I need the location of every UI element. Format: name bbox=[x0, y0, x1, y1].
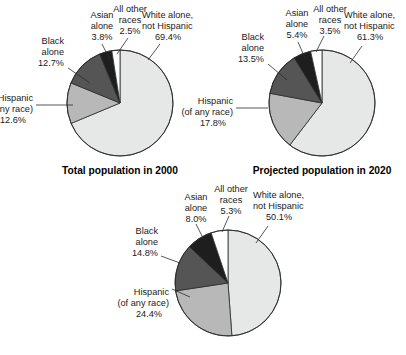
pie-slices-chart-0 bbox=[67, 50, 173, 156]
label-line1: All other bbox=[113, 4, 147, 14]
label-line2: races bbox=[119, 15, 142, 25]
label-line1: Asian bbox=[286, 8, 309, 18]
pie-chart-figure: White alone, not Hispanic 69.4% Hispanic… bbox=[0, 0, 406, 355]
label-value: 12.6% bbox=[0, 115, 26, 125]
label-line2: not Hispanic bbox=[253, 201, 304, 211]
label-line1: White alone, bbox=[142, 10, 193, 20]
label-value: 12.7% bbox=[38, 58, 64, 68]
slice-label-black-alone-chart-0: Black alone 12.7% bbox=[38, 36, 64, 68]
figure-canvas: White alone, not Hispanic 69.4% Hispanic… bbox=[0, 0, 406, 355]
pie-chart-projected-population-2020: White alone, not Hispanic 61.3% Hispanic… bbox=[181, 4, 395, 176]
label-value: 13.5% bbox=[238, 54, 264, 64]
slice-label-black-alone-chart-1: Black alone 13.5% bbox=[238, 32, 264, 64]
slice-label-black-alone-chart-2: Black alone 14.8% bbox=[132, 226, 158, 258]
label-line2: alone bbox=[242, 43, 264, 53]
label-line2: alone bbox=[91, 21, 113, 31]
leader-line-black-chart-2 bbox=[161, 256, 180, 263]
label-line1: Black bbox=[136, 226, 159, 236]
pie-slice-hispanic-of-any-race[interactable] bbox=[176, 283, 232, 336]
chart-title-total-population-2000: Total population in 2000 bbox=[62, 165, 178, 176]
label-line2: alone bbox=[286, 19, 308, 29]
slice-label-white-alone-chart-0: White alone, not Hispanic 69.4% bbox=[142, 10, 193, 42]
label-line1: Hispanic bbox=[134, 287, 170, 297]
chart-title-projected-population-2020: Projected population in 2020 bbox=[253, 165, 392, 176]
slice-label-hispanic-chart-2: Hispanic (of any race) 24.4% bbox=[117, 287, 169, 319]
label-line1: All other bbox=[214, 184, 248, 194]
label-value: 61.3% bbox=[357, 32, 383, 42]
label-line2: (of any race) bbox=[0, 104, 33, 114]
pie-slices-chart-1 bbox=[269, 50, 375, 156]
label-value: 2.5% bbox=[120, 26, 141, 36]
label-line1: Hispanic bbox=[198, 96, 234, 106]
label-line1: Black bbox=[242, 32, 265, 42]
slice-label-hispanic-chart-1: Hispanic (of any race) 17.8% bbox=[181, 96, 233, 128]
label-line2: (of any race) bbox=[181, 107, 233, 117]
slice-label-all-other-races-chart-1: All other races 3.5% bbox=[313, 4, 347, 36]
label-line1: Black bbox=[42, 36, 65, 46]
slice-label-all-other-races-chart-2: All other races 5.3% bbox=[214, 184, 248, 216]
label-value: 5.3% bbox=[221, 206, 242, 216]
leader-line-white-chart-0 bbox=[148, 44, 160, 60]
pie-chart-projected-population-2050: White alone, not Hispanic 50.1% Hispanic… bbox=[117, 184, 304, 336]
label-line1: Hispanic bbox=[0, 93, 33, 103]
slice-label-white-alone-chart-1: White alone, not Hispanic 61.3% bbox=[344, 10, 395, 42]
label-value: 3.8% bbox=[92, 32, 113, 42]
pie-slice-white-alone-not-hispanic[interactable] bbox=[228, 230, 281, 336]
label-value: 8.0% bbox=[186, 214, 207, 224]
slice-label-all-other-races-chart-0: All other races 2.5% bbox=[113, 4, 147, 36]
slice-label-asian-alone-chart-1: Asian alone 5.4% bbox=[286, 8, 309, 40]
label-line2: alone bbox=[42, 47, 64, 57]
slice-label-hispanic-chart-0: Hispanic (of any race) 12.6% bbox=[0, 93, 33, 125]
label-value: 5.4% bbox=[287, 30, 308, 40]
slice-label-white-alone-chart-2: White alone, not Hispanic 50.1% bbox=[253, 190, 304, 222]
label-line2: not Hispanic bbox=[142, 21, 193, 31]
label-value: 24.4% bbox=[136, 309, 162, 319]
pie-slices-chart-2 bbox=[175, 230, 281, 336]
label-value: 69.4% bbox=[155, 32, 181, 42]
label-line2: alone bbox=[185, 203, 207, 213]
label-line2: (of any race) bbox=[117, 298, 169, 308]
pie-chart-total-population-2000: White alone, not Hispanic 69.4% Hispanic… bbox=[0, 4, 193, 176]
leader-line-white-chart-1 bbox=[350, 46, 362, 63]
label-line1: Asian bbox=[185, 192, 208, 202]
label-line1: All other bbox=[313, 4, 347, 14]
label-line2: not Hispanic bbox=[344, 21, 395, 31]
label-value: 50.1% bbox=[266, 212, 292, 222]
label-line1: White alone, bbox=[344, 10, 395, 20]
label-value: 17.8% bbox=[200, 118, 226, 128]
leader-line-white-chart-2 bbox=[256, 226, 268, 243]
slice-label-asian-alone-chart-2: Asian alone 8.0% bbox=[185, 192, 208, 224]
label-line1: Asian bbox=[91, 10, 114, 20]
label-line2: races bbox=[319, 15, 342, 25]
label-line1: White alone, bbox=[253, 190, 304, 200]
slice-label-asian-alone-chart-0: Asian alone 3.8% bbox=[91, 10, 114, 42]
label-value: 3.5% bbox=[320, 26, 341, 36]
label-line2: races bbox=[220, 195, 243, 205]
label-value: 14.8% bbox=[132, 248, 158, 258]
label-line2: alone bbox=[136, 237, 158, 247]
